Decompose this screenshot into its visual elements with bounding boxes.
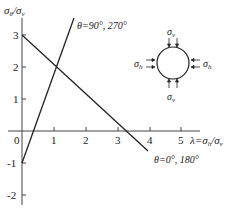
series-label-90: θ=90°, 270°: [77, 20, 127, 31]
inset-label-left: σh: [134, 58, 143, 71]
chart: 3 2 1 -1 -2 0 1 2 3 4 5 σθ/σv λ=σh/σv θ=…: [0, 0, 238, 211]
inset-label-top: σv: [167, 26, 176, 39]
series-label-0: θ=0°, 180°: [154, 154, 199, 165]
inset-label-right: σh: [203, 58, 212, 71]
series-theta-90-270: [22, 18, 74, 163]
x-tick-1: 1: [51, 134, 57, 146]
x-tick-5: 5: [178, 134, 184, 146]
y-tick-neg2: -2: [7, 189, 16, 201]
y-tick-neg1: -1: [7, 157, 16, 169]
y-tick-3: 3: [13, 29, 19, 41]
x-axis-label: λ=σh/σv: [189, 134, 224, 148]
x-tick-4: 4: [147, 134, 153, 146]
y-tick-1: 1: [13, 93, 19, 105]
y-tick-2: 2: [13, 61, 19, 73]
y-tick-labels: 3 2 1 -1 -2: [7, 29, 19, 201]
x-tick-labels: 0 1 2 3 4 5: [14, 134, 184, 146]
inset-label-bottom: σv: [167, 91, 176, 104]
x-ticks: [54, 127, 181, 131]
y-ticks: [22, 35, 26, 195]
borehole-circle: [157, 47, 189, 79]
x-tick-3: 3: [115, 134, 121, 146]
borehole-stress-diagram: σv σv σh σh: [134, 26, 212, 104]
x-tick-0: 0: [14, 134, 20, 146]
y-axis-label: σθ/σv: [4, 4, 25, 18]
x-tick-2: 2: [83, 134, 89, 146]
